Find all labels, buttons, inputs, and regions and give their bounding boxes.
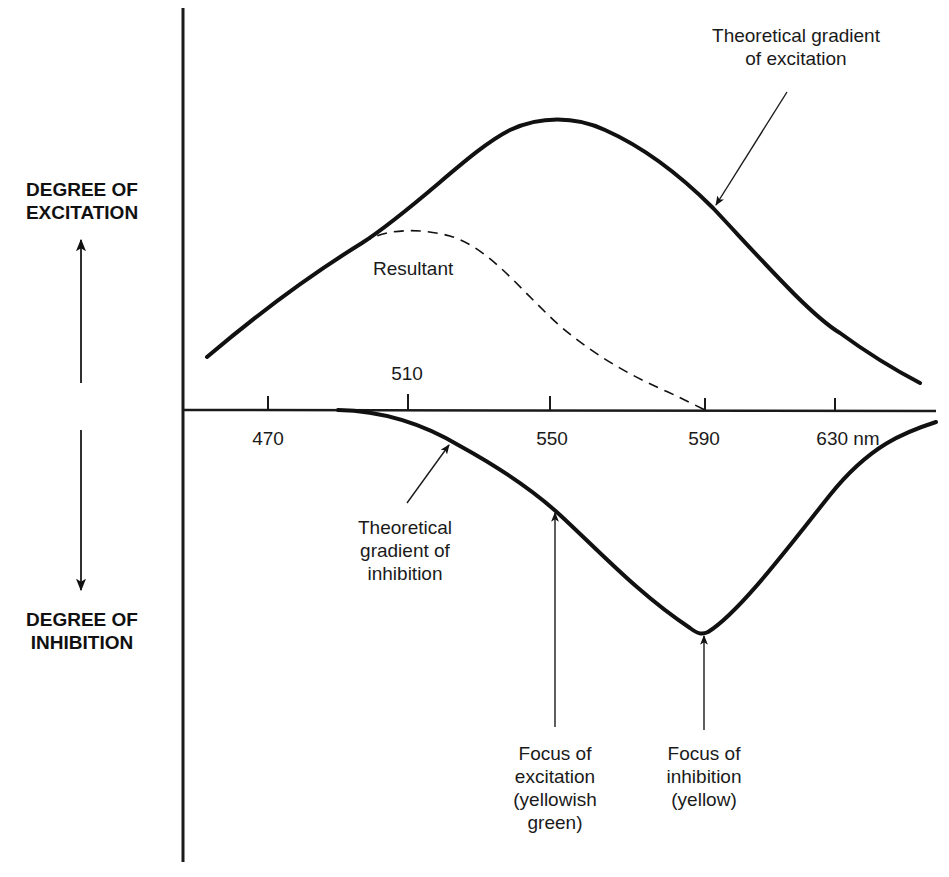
inhibition-gradient-label-line1: Theoretical: [340, 516, 470, 539]
tick-label-630nm: 630 nm: [816, 428, 879, 450]
x-axis-ticks: [268, 394, 835, 411]
inhibition-gradient-label-line2: gradient of: [340, 539, 470, 562]
focus-inhibition-label-line1: Focus of: [644, 742, 764, 765]
focus-inhibition-label: Focus of inhibition (yellow): [644, 742, 764, 811]
tick-label-550: 550: [536, 428, 568, 450]
gradient-diagram: [0, 0, 949, 877]
excitation-label-arrow: [716, 92, 787, 205]
excitation-gradient-label-line1: Theoretical gradient: [686, 24, 906, 47]
y-axis-label-inhibition-line2: INHIBITION: [8, 631, 156, 654]
focus-excitation-label-line4: green): [495, 811, 615, 834]
focus-inhibition-label-line3: (yellow): [644, 788, 764, 811]
tick-label-470: 470: [252, 428, 284, 450]
x-axis-line: [183, 410, 936, 411]
y-axis-label-inhibition: DEGREE OF INHIBITION: [8, 608, 156, 654]
tick-label-590: 590: [688, 428, 720, 450]
focus-excitation-label-line3: (yellowish: [495, 788, 615, 811]
inhibition-label-arrow: [407, 445, 449, 503]
y-axis-label-excitation-line1: DEGREE OF: [8, 178, 156, 201]
focus-excitation-label-line1: Focus of: [495, 742, 615, 765]
y-axis-label-inhibition-line1: DEGREE OF: [8, 608, 156, 631]
focus-excitation-label-line2: excitation: [495, 765, 615, 788]
y-axis-label-excitation: DEGREE OF EXCITATION: [8, 178, 156, 224]
focus-inhibition-label-line2: inhibition: [644, 765, 764, 788]
excitation-gradient-label: Theoretical gradient of excitation: [686, 24, 906, 70]
excitation-gradient-curve: [207, 120, 920, 384]
tick-label-510: 510: [391, 363, 423, 385]
resultant-label: Resultant: [373, 257, 453, 280]
focus-excitation-label: Focus of excitation (yellowish green): [495, 742, 615, 834]
inhibition-gradient-label-line3: inhibition: [340, 562, 470, 585]
excitation-gradient-label-line2: of excitation: [686, 47, 906, 70]
y-axis-label-excitation-line2: EXCITATION: [8, 201, 156, 224]
inhibition-gradient-label: Theoretical gradient of inhibition: [340, 516, 470, 585]
